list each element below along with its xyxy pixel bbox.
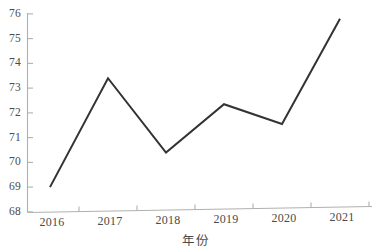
y-tick-label-68: 68	[0, 206, 21, 218]
x-tick-label-2017: 2017	[98, 215, 123, 227]
x-axis-title: 年份	[182, 230, 210, 246]
y-tick-label-74: 74	[0, 58, 21, 70]
y-tick-label-69: 69	[0, 181, 21, 193]
plot-area	[0, 0, 378, 246]
y-tick-label-76: 76	[0, 8, 21, 20]
y-tick-label-73: 73	[0, 82, 21, 94]
y-axis-ticks	[28, 14, 34, 212]
x-tick-label-2019: 2019	[214, 213, 239, 225]
y-tick-label-72: 72	[0, 107, 21, 119]
y-tick-label-75: 75	[0, 33, 21, 45]
line-chart: 76 75 74 73 72 71 70 69 68 2016 2017 201…	[0, 0, 378, 246]
data-series-line	[50, 19, 340, 187]
x-tick-label-2018: 2018	[156, 214, 181, 226]
x-axis-ticks	[79, 201, 369, 211]
x-tick-label-2021: 2021	[330, 211, 355, 223]
x-tick-label-2020: 2020	[272, 212, 297, 224]
y-tick-label-71: 71	[0, 132, 21, 144]
y-tick-label-70: 70	[0, 157, 21, 169]
x-tick-label-2016: 2016	[40, 216, 65, 228]
